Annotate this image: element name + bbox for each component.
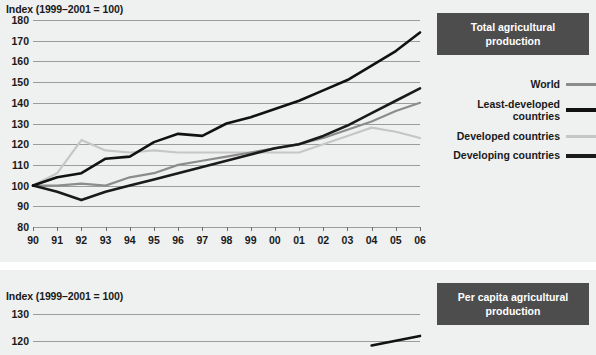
x-axis-label: 94 [124,234,136,246]
x-axis-tick [106,227,107,231]
x-axis-tick [347,227,348,231]
x-axis-tick [299,227,300,231]
y-axis-label: 140 [3,97,29,109]
y-axis-label: 90 [3,200,29,212]
plot-area-bottom [33,306,420,355]
x-axis-label: 06 [414,234,426,246]
series-line [372,336,420,346]
x-axis-label: 90 [27,234,39,246]
x-axis-tick [275,227,276,231]
x-axis-label: 98 [221,234,233,246]
chart-legend: WorldLeast-developedcountriesDeveloped c… [420,78,596,169]
x-axis-label: 95 [148,234,160,246]
x-axis-tick [57,227,58,231]
x-axis-label: 05 [390,234,402,246]
x-axis-label: 92 [76,234,88,246]
y-axis-label: 170 [3,35,29,47]
x-axis-label: 99 [245,234,257,246]
x-axis-tick [202,227,203,231]
x-axis-label: 00 [269,234,281,246]
legend-item: Developed countries [420,130,596,143]
series-lines-bottom [33,306,420,355]
x-axis-label: 91 [51,234,63,246]
x-axis-label: 97 [196,234,208,246]
legend-color-swatch [566,154,596,158]
legend-item: World [420,78,596,91]
x-axis-label: 93 [100,234,112,246]
plot-area-top [33,20,420,227]
x-axis-tick [372,227,373,231]
legend-item: Least-developedcountries [420,98,596,123]
x-axis-tick [81,227,82,231]
legend-item-label: Developed countries [457,130,560,143]
x-axis-label: 96 [172,234,184,246]
x-axis-tick [33,227,34,231]
y-axis-label: 110 [3,159,29,171]
x-axis-tick [154,227,155,231]
x-axis-tick [227,227,228,231]
x-axis-label: 03 [342,234,354,246]
legend-item-label: World [530,78,560,91]
y-axis-title-bottom: Index (1999–2001 = 100) [6,290,123,302]
y-axis-label: 130 [3,308,29,320]
legend-color-swatch [566,108,596,112]
x-axis-label: 01 [293,234,305,246]
y-axis-label: 130 [3,118,29,130]
legend-color-swatch [566,83,596,86]
series-line [33,32,420,185]
y-axis-label: 80 [3,221,29,233]
series-lines-top [33,20,420,227]
chart-title-box-per-capita: Per capita agricultural production [437,283,589,325]
legend-item-label: Least-developedcountries [477,98,560,123]
y-axis-label: 180 [3,14,29,26]
chart-title-box-total-production: Total agricultural production [437,13,589,55]
y-axis-label: 150 [3,76,29,88]
legend-item: Developing countries [420,149,596,162]
x-axis-tick [251,227,252,231]
x-axis-tick [323,227,324,231]
legend-color-swatch [566,135,596,138]
y-axis-label: 120 [3,138,29,150]
x-axis-tick [130,227,131,231]
x-axis-tick [396,227,397,231]
y-axis-label: 100 [3,180,29,192]
y-axis-label: 120 [3,335,29,347]
x-axis-tick [420,227,421,231]
x-axis-label: 04 [366,234,378,246]
x-axis-label: 02 [317,234,329,246]
y-axis-label: 160 [3,55,29,67]
x-axis-tick [178,227,179,231]
legend-item-label: Developing countries [453,149,560,162]
